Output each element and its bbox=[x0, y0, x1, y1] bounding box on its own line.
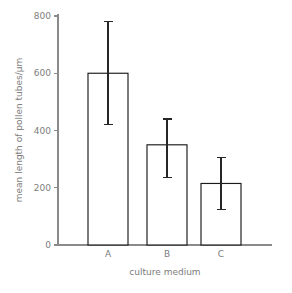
y-tick-label: 600 bbox=[34, 68, 51, 78]
chart-canvas: 0200400600800 ABC culture medium mean le… bbox=[0, 0, 292, 293]
bars-group bbox=[88, 73, 241, 245]
bar-chart-figure: 0200400600800 ABC culture medium mean le… bbox=[0, 0, 292, 293]
plot-area: 0200400600800 ABC culture medium mean le… bbox=[0, 0, 292, 293]
x-tick-label-b: B bbox=[164, 249, 170, 259]
y-tick-label: 400 bbox=[34, 126, 51, 136]
y-axis-title: mean length of pollen tubes/µm bbox=[14, 58, 24, 203]
y-tick-label: 200 bbox=[34, 183, 51, 193]
y-tick-label: 0 bbox=[45, 240, 51, 250]
x-ticks-group: ABC bbox=[105, 249, 224, 259]
x-tick-label-c: C bbox=[218, 249, 224, 259]
y-ticks-group: 0200400600800 bbox=[34, 11, 58, 250]
x-axis-title: culture medium bbox=[129, 267, 200, 277]
y-tick-label: 800 bbox=[34, 11, 51, 21]
x-tick-label-a: A bbox=[105, 249, 112, 259]
